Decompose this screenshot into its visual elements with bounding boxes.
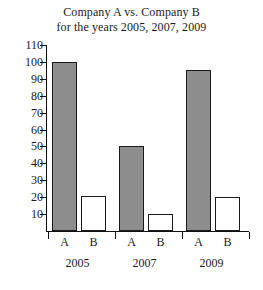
y-tick-label: 110: [25, 39, 43, 51]
x-axis-labels: AB2005AB2007AB2009: [46, 236, 249, 286]
y-tick-label: 80: [31, 90, 43, 102]
y-tick-label: 50: [31, 140, 43, 152]
bar-chart-figure: Company A vs. Company B for the years 20…: [0, 0, 263, 290]
y-tick-label: 100: [25, 56, 43, 68]
bar-2005-B: [81, 196, 106, 232]
series-label-2005-A: A: [60, 236, 69, 248]
chart-title: Company A vs. Company B for the years 20…: [0, 5, 263, 35]
y-tick-label: 90: [31, 73, 43, 85]
bar-2009-A: [186, 70, 211, 231]
y-tick-label: 70: [31, 107, 43, 119]
bars-layer: [46, 45, 249, 232]
series-label-2005-B: B: [89, 236, 97, 248]
x-tick-mark: [249, 232, 250, 239]
plot-area: 102030405060708090100110: [46, 45, 249, 232]
y-tick-label: 20: [31, 191, 43, 203]
series-label-2009-A: A: [194, 236, 203, 248]
group-label-2005: 2005: [66, 257, 90, 269]
bar-2005-A: [52, 62, 77, 231]
y-tick-label: 40: [31, 157, 43, 169]
chart-title-line-2: for the years 2005, 2007, 2009: [0, 20, 263, 35]
chart-title-line-1: Company A vs. Company B: [0, 5, 263, 20]
y-tick-label: 10: [31, 208, 43, 220]
y-tick-label: 30: [31, 174, 43, 186]
series-label-2007-B: B: [156, 236, 164, 248]
group-label-2007: 2007: [133, 257, 157, 269]
bar-2007-B: [148, 214, 173, 231]
y-tick-label: 60: [31, 124, 43, 136]
series-label-2007-A: A: [127, 236, 136, 248]
bar-2009-B: [215, 197, 240, 231]
series-label-2009-B: B: [223, 236, 231, 248]
group-label-2009: 2009: [200, 257, 224, 269]
bar-2007-A: [119, 146, 144, 231]
